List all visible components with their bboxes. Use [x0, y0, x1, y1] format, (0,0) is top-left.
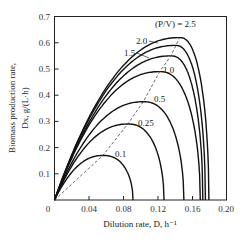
y-axis-title-units: Dx, g/(L·h): [20, 87, 30, 129]
chart-figure: 0.1 0.2 0.3 0.4 0.5 0.6 0.7 0 0.04 0.08 …: [0, 0, 243, 243]
curve-label-1-5: 1.5: [124, 48, 136, 58]
curve-label-2-0: 2.0: [136, 36, 148, 46]
y-tick-label: 0.5: [39, 64, 51, 74]
y-axis-title: Biomass production rate,: [7, 63, 17, 153]
y-tick-label: 0.7: [39, 12, 51, 22]
x-tick-label: 0.16: [185, 204, 201, 214]
x-tick-label: 0: [46, 204, 51, 214]
curve-label-1-0: 1.0: [163, 65, 175, 75]
curve-pv-1-0: [55, 72, 201, 200]
parameter-label: (P/V) = 2.5: [155, 19, 196, 29]
curve-label-0-5: 0.5: [154, 94, 166, 104]
y-tick-label: 0.6: [39, 38, 51, 48]
y-tick-label: 0.3: [39, 116, 51, 126]
y-tick-label: 0.4: [39, 90, 51, 100]
curve-label-0-25: 0.25: [138, 118, 154, 128]
x-axis-title: Dilution rate, D, h⁻¹: [103, 219, 177, 229]
x-tick-label: 0.12: [150, 204, 166, 214]
y-axis: [55, 43, 59, 174]
curve-label-0-1: 0.1: [115, 149, 126, 159]
y-tick-label: 0.2: [39, 143, 50, 153]
y-tick-label: 0.1: [39, 169, 50, 179]
curve-pv-0-1: [55, 156, 134, 201]
x-tick-label: 0.20: [218, 204, 234, 214]
curve-pv-1-5: [55, 56, 203, 200]
curve-pv-0-25: [55, 124, 165, 200]
x-tick-label: 0.08: [116, 204, 132, 214]
x-tick-label: 0.04: [81, 204, 97, 214]
locus-of-maxima-dashed-line: [55, 38, 180, 200]
x-axis: [89, 196, 193, 200]
